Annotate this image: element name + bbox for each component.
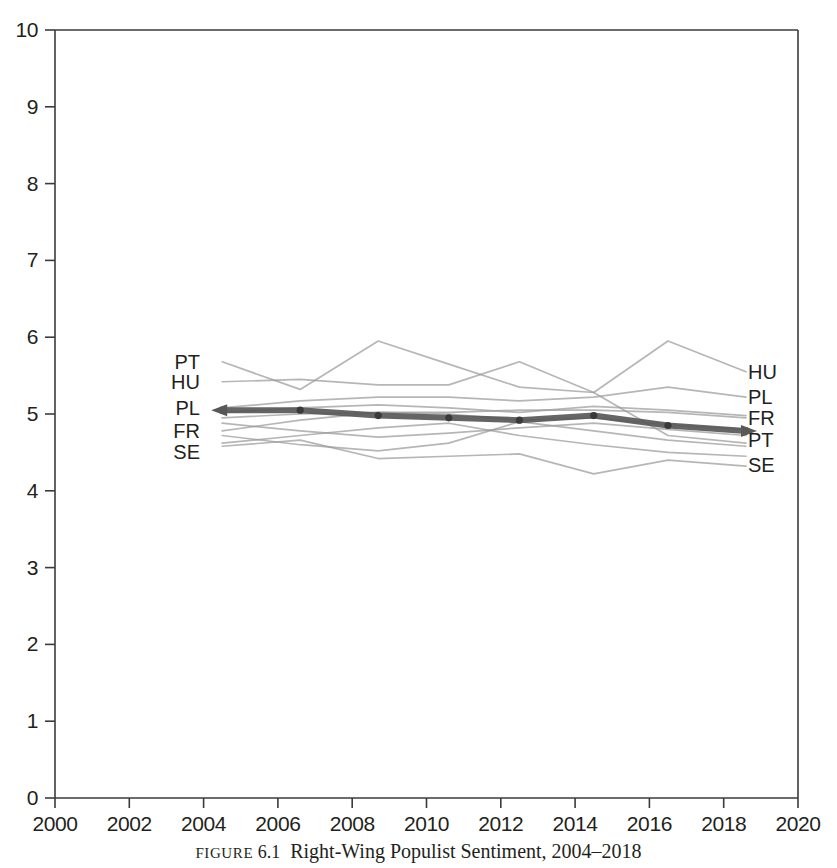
series-start-arrow — [211, 404, 227, 416]
series-label-left-PT: PT — [174, 351, 200, 373]
figure-container: 012345678910 200020022004200620082010201… — [0, 0, 837, 868]
y-tick-label: 6 — [27, 325, 38, 348]
y-tick-label: 10 — [15, 18, 38, 41]
x-tick-label: 2016 — [627, 812, 672, 835]
data-point-marker — [590, 412, 597, 419]
series-line-PL — [222, 387, 746, 408]
caption-label: FIGURE — [195, 845, 253, 861]
x-tick-label: 2018 — [701, 812, 746, 835]
y-tick-label: 3 — [27, 556, 38, 579]
x-tick-label: 2000 — [32, 812, 77, 835]
caption-title: Right-Wing Populist Sentiment, 2004–2018 — [290, 840, 641, 862]
series-label-left-FR: FR — [173, 420, 200, 442]
y-axis-ticks: 012345678910 — [15, 18, 55, 809]
series-line-HU — [222, 341, 746, 392]
series-label-right-PT: PT — [748, 429, 774, 451]
series-labels-left: PTHUPLFRSE — [171, 351, 200, 464]
data-point-marker — [297, 407, 304, 414]
x-tick-label: 2006 — [255, 812, 300, 835]
x-tick-label: 2002 — [107, 812, 152, 835]
data-point-marker — [375, 412, 382, 419]
x-axis-ticks: 2000200220042006200820102012201420162018… — [32, 798, 820, 835]
x-tick-label: 2008 — [330, 812, 375, 835]
x-tick-label: 2020 — [775, 812, 820, 835]
data-point-marker — [445, 414, 452, 421]
series-labels-right: HUPLFRPTSE — [748, 361, 777, 476]
series-label-right-PL: PL — [748, 386, 772, 408]
y-tick-label: 2 — [27, 632, 38, 655]
y-tick-label: 9 — [27, 95, 38, 118]
y-tick-label: 7 — [27, 248, 38, 271]
y-tick-label: 4 — [27, 479, 39, 502]
series-label-left-SE: SE — [173, 441, 200, 463]
figure-caption: FIGURE 6.1 Right-Wing Populist Sentiment… — [0, 840, 837, 863]
series-label-right-SE: SE — [748, 454, 775, 476]
y-tick-label: 5 — [27, 402, 38, 425]
x-tick-label: 2010 — [404, 812, 449, 835]
x-tick-label: 2014 — [553, 812, 599, 835]
series-label-right-FR: FR — [748, 407, 775, 429]
series-label-right-HU: HU — [748, 361, 777, 383]
caption-number: 6.1 — [258, 842, 281, 862]
line-chart: 012345678910 200020022004200620082010201… — [0, 0, 837, 868]
y-tick-label: 8 — [27, 172, 38, 195]
x-tick-label: 2012 — [478, 812, 523, 835]
data-point-marker — [664, 422, 671, 429]
series-label-left-PL: PL — [176, 397, 200, 419]
series-label-left-HU: HU — [171, 371, 200, 393]
y-tick-label: 0 — [27, 786, 38, 809]
data-point-marker — [516, 417, 523, 424]
y-tick-label: 1 — [27, 709, 38, 732]
x-tick-label: 2004 — [181, 812, 227, 835]
